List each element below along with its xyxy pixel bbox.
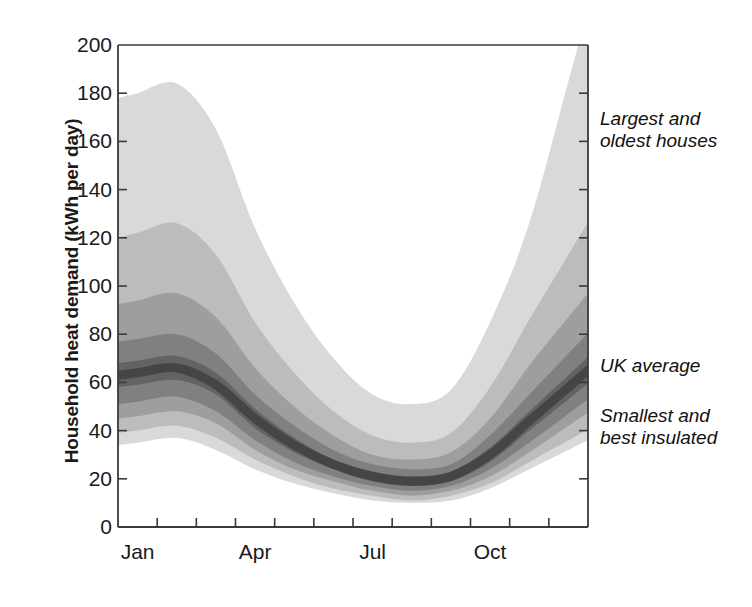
x-tick-label: Apr: [215, 541, 295, 562]
annotation-largest-oldest-houses: Largest and oldest houses: [600, 108, 717, 152]
x-axis-tick-labels: JanAprJulOct: [0, 0, 752, 607]
x-tick-label: Jul: [333, 541, 413, 562]
annotation-uk-average: UK average: [600, 355, 700, 377]
fan-chart-figure: Household heat demand (kWh per day) 2001…: [0, 0, 752, 607]
x-tick-label: Oct: [450, 541, 530, 562]
annotation-smallest-best-insulated: Smallest and best insulated: [600, 405, 717, 449]
x-tick-label: Jan: [98, 541, 178, 562]
